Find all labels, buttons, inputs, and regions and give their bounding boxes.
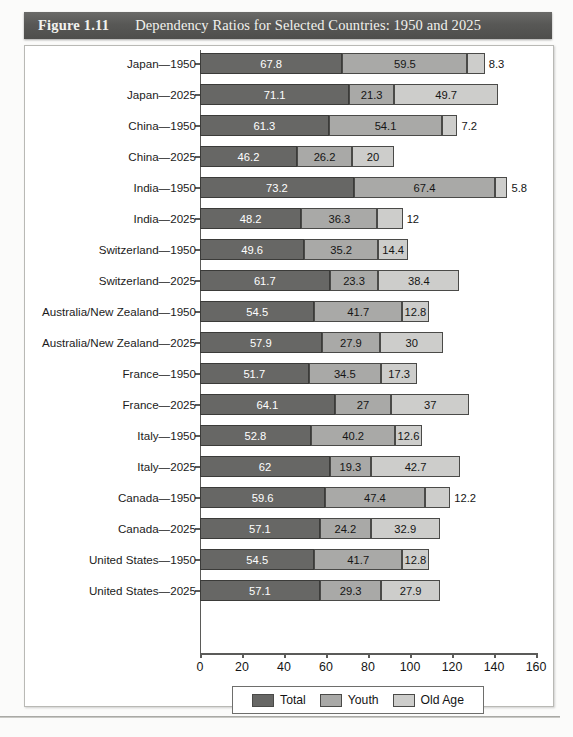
x-axis-tick-label: 60 <box>319 660 333 674</box>
stacked-bar: 48.236.312 <box>200 208 403 229</box>
bar-segment-youth: 27 <box>335 394 392 415</box>
bar-row-label: Canada—1950 <box>118 487 196 508</box>
stacked-bar: 61.354.17.2 <box>200 115 457 136</box>
bar-value-label: 67.4 <box>414 182 436 194</box>
legend-item: Old Age <box>393 693 464 707</box>
x-axis-tick <box>494 653 496 658</box>
bar-row: United States—202557.129.327.9 <box>0 580 573 611</box>
bar-segment-old: 49.7 <box>394 84 498 105</box>
bar-row-label: India—1950 <box>133 177 196 198</box>
bar-segment-old: 14.4 <box>378 239 408 260</box>
bar-value-label: 27.9 <box>400 585 422 597</box>
bar-value-label: 52.8 <box>245 430 267 442</box>
stacked-bar: 57.927.930 <box>200 332 443 353</box>
legend-label: Total <box>280 693 306 707</box>
bar-segment-total: 64.1 <box>200 394 335 415</box>
bar-value-label: 40.2 <box>342 430 364 442</box>
bar-segment-total: 54.5 <box>200 549 314 570</box>
bar-segment-old: 12.8 <box>402 549 429 570</box>
bar-segment-old: 30 <box>380 332 443 353</box>
bar-segment-youth: 35.2 <box>304 239 378 260</box>
bar-value-label: 17.3 <box>388 368 410 380</box>
bar-value-label: 35.2 <box>330 244 352 256</box>
bar-value-label: 12.6 <box>398 430 420 442</box>
bar-row-label: Australia/New Zealand—1950 <box>42 301 196 322</box>
bar-value-label: 8.3 <box>489 58 505 70</box>
bar-segment-old: 17.3 <box>381 363 417 384</box>
bar-value-label: 71.1 <box>264 89 286 101</box>
bar-value-label: 21.3 <box>361 89 383 101</box>
bar-row-label: Switzerland—2025 <box>99 270 196 291</box>
bar-row-label: United States—1950 <box>89 549 196 570</box>
bar-segment-old: 37 <box>391 394 469 415</box>
bar-value-label: 26.2 <box>314 151 336 163</box>
bar-row-label: United States—2025 <box>89 580 196 601</box>
bar-row: Japan—195067.859.58.3 <box>0 53 573 84</box>
stacked-bar: 61.723.338.4 <box>200 270 459 291</box>
x-axis-tick <box>284 653 286 658</box>
bar-segment-old: 12.8 <box>402 301 429 322</box>
stacked-bar: 57.129.327.9 <box>200 580 440 601</box>
bar-segment-old: 8.3 <box>467 53 484 74</box>
bar-row: China—202546.226.220 <box>0 146 573 177</box>
bar-row-label: Italy—1950 <box>137 425 196 446</box>
bar-row: India—195073.267.45.8 <box>0 177 573 208</box>
legend-label: Old Age <box>421 693 464 707</box>
bar-value-label: 54.5 <box>246 554 268 566</box>
x-axis-tick-label: 0 <box>197 660 204 674</box>
bar-segment-youth: 24.2 <box>320 518 371 539</box>
bar-segment-youth: 34.5 <box>309 363 381 384</box>
bar-value-label: 36.3 <box>328 213 350 225</box>
bar-segment-total: 46.2 <box>200 146 297 167</box>
bar-segment-youth: 67.4 <box>354 177 496 198</box>
bar-value-label: 32.9 <box>394 523 416 535</box>
bar-segment-old: 12.2 <box>425 487 451 508</box>
bar-row: Italy—20256219.342.7 <box>0 456 573 487</box>
bar-segment-total: 62 <box>200 456 330 477</box>
bar-segment-youth: 54.1 <box>329 115 443 136</box>
bar-row-label: China—2025 <box>128 146 196 167</box>
bar-value-label: 57.1 <box>249 523 271 535</box>
bar-segment-total: 57.9 <box>200 332 322 353</box>
bar-segment-total: 57.1 <box>200 580 320 601</box>
bar-segment-total: 61.7 <box>200 270 330 291</box>
bar-value-label: 38.4 <box>408 275 430 287</box>
bar-row: India—202548.236.312 <box>0 208 573 239</box>
stacked-bar: 51.734.517.3 <box>200 363 417 384</box>
bar-row: Australia/New Zealand—202557.927.930 <box>0 332 573 363</box>
bar-value-label: 5.8 <box>511 182 527 194</box>
page-bottom-rule <box>0 716 560 718</box>
bar-value-label: 61.3 <box>253 120 275 132</box>
bar-value-label: 19.3 <box>340 461 362 473</box>
bar-segment-youth: 36.3 <box>301 208 377 229</box>
stacked-bar: 54.541.712.8 <box>200 301 429 322</box>
dependency-ratio-chart: Japan—195067.859.58.3Japan—202571.121.34… <box>0 0 573 737</box>
bar-segment-old: 27.9 <box>381 580 440 601</box>
bar-segment-old: 32.9 <box>371 518 440 539</box>
bar-value-label: 14.4 <box>382 244 404 256</box>
bar-value-label: 67.8 <box>260 58 282 70</box>
bar-segment-youth: 29.3 <box>320 580 382 601</box>
x-axis-tick <box>326 653 328 658</box>
bar-segment-old: 12.6 <box>395 425 421 446</box>
bar-segment-old: 5.8 <box>495 177 507 198</box>
bar-segment-old: 20 <box>352 146 394 167</box>
bar-value-label: 57.1 <box>249 585 271 597</box>
bar-row-label: Canada—2025 <box>118 518 196 539</box>
bar-value-label: 12.8 <box>405 554 427 566</box>
bar-row: France—195051.734.517.3 <box>0 363 573 394</box>
figure-container: Figure 1.11 Dependency Ratios for Select… <box>0 0 573 737</box>
bar-row: Switzerland—202561.723.338.4 <box>0 270 573 301</box>
chart-legend: TotalYouthOld Age <box>232 686 484 714</box>
bar-value-label: 59.5 <box>394 58 416 70</box>
bar-segment-youth: 21.3 <box>349 84 394 105</box>
legend-item: Total <box>252 693 306 707</box>
bar-value-label: 57.9 <box>250 337 272 349</box>
bar-segment-youth: 41.7 <box>314 549 402 570</box>
x-axis-tick-label: 160 <box>526 660 547 674</box>
bar-value-label: 37 <box>424 399 436 411</box>
bar-segment-old: 42.7 <box>371 456 461 477</box>
bar-segment-youth: 59.5 <box>342 53 467 74</box>
bar-row-label: Switzerland—1950 <box>99 239 196 260</box>
bar-value-label: 7.2 <box>461 120 477 132</box>
